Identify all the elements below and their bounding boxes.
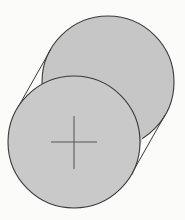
cylinder-diagram <box>0 0 185 220</box>
